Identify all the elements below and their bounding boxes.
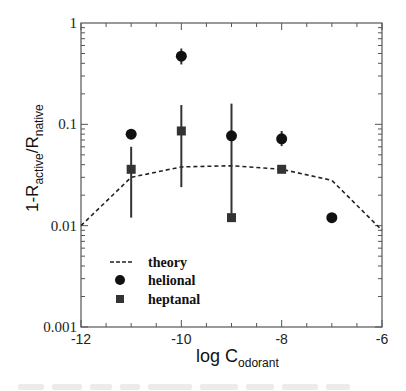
legend-heptanal-swatch <box>116 295 124 303</box>
heptanal-point <box>227 213 236 222</box>
x-tick-label: -8 <box>275 331 288 347</box>
y-tick-label: 0.001 <box>43 319 77 335</box>
legend-helional-swatch <box>115 275 125 285</box>
legend: theoryhelionalheptanal <box>110 255 200 307</box>
x-tick-label: -10 <box>171 331 191 347</box>
legend-label: helional <box>148 273 196 288</box>
heptanal-point <box>177 126 186 135</box>
heptanal-point <box>277 165 286 174</box>
helional-point <box>226 130 237 141</box>
heptanal-point <box>127 165 136 174</box>
helional-point <box>176 51 187 62</box>
legend-label: theory <box>148 255 187 270</box>
legend-label: heptanal <box>148 292 200 307</box>
y-tick-label: 0.1 <box>58 116 77 132</box>
helional-point <box>326 212 337 223</box>
helional-point <box>126 129 137 140</box>
faded-caption-line <box>18 376 388 384</box>
chart-figure: -12-10-8-6 10.10.010.001 theoryhelionalh… <box>0 0 406 391</box>
x-tick-label: -6 <box>376 331 389 347</box>
y-tick-label: 1 <box>70 15 78 31</box>
y-tick-label: 0.01 <box>51 218 77 234</box>
helional-point <box>276 133 287 144</box>
